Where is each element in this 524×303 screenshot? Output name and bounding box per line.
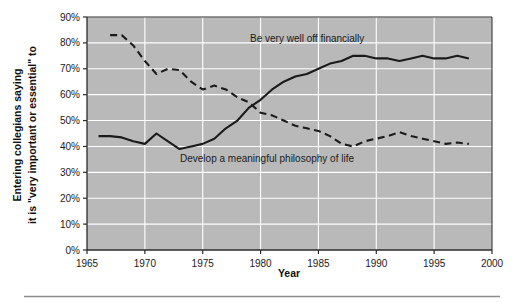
annotation-develop-a-meaningful-philosophy-of-life: Develop a meaningful philosophy of life (180, 153, 354, 164)
x-tick-label: 1985 (307, 258, 330, 269)
x-tick-label: 1970 (134, 258, 157, 269)
y-axis-title-line-2: it is "very important or essential" to (26, 46, 38, 224)
annotation-be-very-well-off-financially: Be very well off financially (250, 33, 364, 44)
y-tick-label: 0% (66, 245, 81, 256)
x-tick-label: 1965 (76, 258, 99, 269)
y-tick-label: 30% (60, 167, 80, 178)
x-tick-label: 2000 (481, 258, 504, 269)
figure-container: 0%10%20%30%40%50%60%70%80%90% 1965197019… (0, 0, 524, 303)
y-axis-title-line-1: Entering collegians saying (11, 68, 23, 201)
x-tick-label: 1990 (365, 258, 388, 269)
plot-area-background (87, 17, 492, 250)
line-chart: 0%10%20%30%40%50%60%70%80%90% 1965197019… (0, 0, 524, 303)
x-tick-label: 1975 (192, 258, 215, 269)
x-tick-label: 1995 (423, 258, 446, 269)
y-tick-label: 40% (60, 141, 80, 152)
x-axis-title: Year (278, 267, 300, 279)
y-tick-label: 50% (60, 115, 80, 126)
y-tick-label: 80% (60, 37, 80, 48)
x-tick-label: 1980 (249, 258, 272, 269)
y-tick-label: 20% (60, 193, 80, 204)
y-tick-label: 90% (60, 12, 80, 23)
y-tick-label: 10% (60, 219, 80, 230)
y-tick-label: 70% (60, 63, 80, 74)
y-tick-label: 60% (60, 89, 80, 100)
